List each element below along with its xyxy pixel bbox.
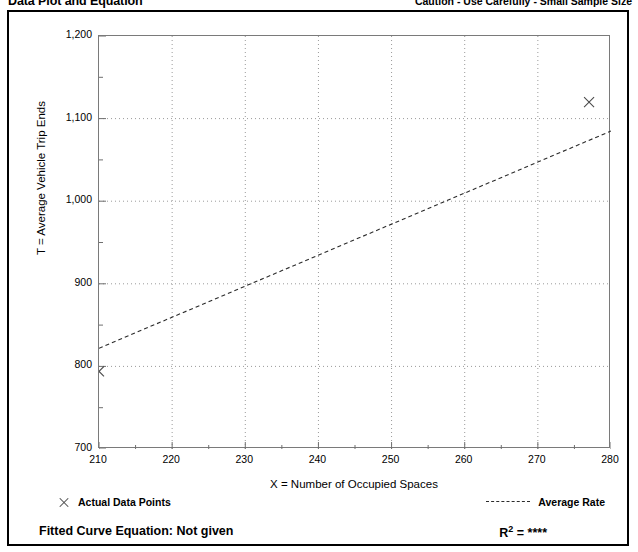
chart-card: T = Average Vehicle Trip Ends X = Number… — [7, 10, 629, 546]
x-tick-label: 210 — [78, 454, 118, 465]
y-tick-label: 800 — [48, 359, 92, 370]
r-squared-value: R2 = **** — [499, 524, 547, 540]
chart: T = Average Vehicle Trip Ends X = Number… — [9, 12, 627, 492]
fitted-curve-equation: Fitted Curve Equation: Not given — [39, 524, 233, 538]
legend-label-average-rate: Average Rate — [538, 496, 605, 508]
y-tick-label: 1,000 — [48, 194, 92, 205]
x-axis-title: X = Number of Occupied Spaces — [98, 478, 610, 490]
x-tick-label: 240 — [297, 454, 337, 465]
x-tick-label: 220 — [151, 454, 191, 465]
x-tick-label: 260 — [444, 454, 484, 465]
x-tick-label: 280 — [590, 454, 630, 465]
chart-legend: Actual Data Points Average Rate — [9, 496, 627, 520]
y-axis-title: T = Average Vehicle Trip Ends — [35, 68, 47, 288]
y-tick-label: 1,200 — [48, 29, 92, 40]
page-title: Data Plot and Equation — [8, 0, 143, 8]
r-squared-exponent: 2 — [508, 524, 513, 534]
page-header: Data Plot and Equation Caution - Use Car… — [0, 0, 638, 10]
r-squared-symbol: R — [499, 526, 508, 540]
r-squared-number: = **** — [517, 526, 547, 540]
x-tick-label: 270 — [517, 454, 557, 465]
plot-area — [98, 35, 610, 448]
y-tick-label: 700 — [48, 442, 92, 453]
plot-canvas — [99, 36, 609, 447]
x-marker-icon — [58, 497, 69, 508]
legend-item-average-rate: Average Rate — [486, 496, 605, 508]
legend-item-actual-data-points: Actual Data Points — [58, 496, 171, 508]
y-tick-label: 1,100 — [48, 112, 92, 123]
dashed-line-icon — [486, 501, 530, 503]
legend-label-actual-data-points: Actual Data Points — [78, 496, 171, 508]
equation-row: Fitted Curve Equation: Not given R2 = **… — [9, 524, 627, 546]
y-tick-label: 900 — [48, 277, 92, 288]
x-tick-label: 230 — [224, 454, 264, 465]
caution-note: Caution - Use Carefully - Small Sample S… — [415, 0, 632, 7]
x-tick-label: 250 — [371, 454, 411, 465]
